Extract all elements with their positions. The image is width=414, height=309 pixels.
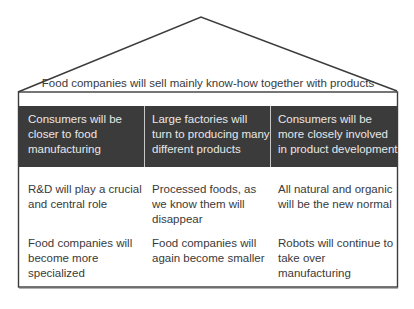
pillar-cell-robots: Robots will continue to take over manufa… (278, 236, 398, 281)
pillar-cell-natural-organic: All natural and organic will be the new … (278, 182, 398, 212)
header-band: Consumers will be closer to food manufac… (19, 106, 397, 167)
pillar-cell-specialized: Food companies will become more speciali… (28, 236, 143, 281)
roof-label: Food companies will sell mainly know-how… (18, 77, 398, 89)
pillar-cell-processed-foods: Processed foods, as we know them will di… (152, 182, 270, 227)
header-cell-large-factories: Large factories will turn to producing m… (152, 112, 270, 157)
header-cell-consumers-closer: Consumers will be closer to food manufac… (28, 112, 143, 157)
column-divider (144, 106, 145, 167)
header-cell-consumers-involved: Consumers will be more closely involved … (278, 112, 398, 157)
column-divider (270, 106, 271, 167)
pillar-cell-rnd: R&D will play a crucial and central role (28, 182, 143, 212)
pillar-cell-smaller: Food companies will again become smaller (152, 236, 270, 266)
